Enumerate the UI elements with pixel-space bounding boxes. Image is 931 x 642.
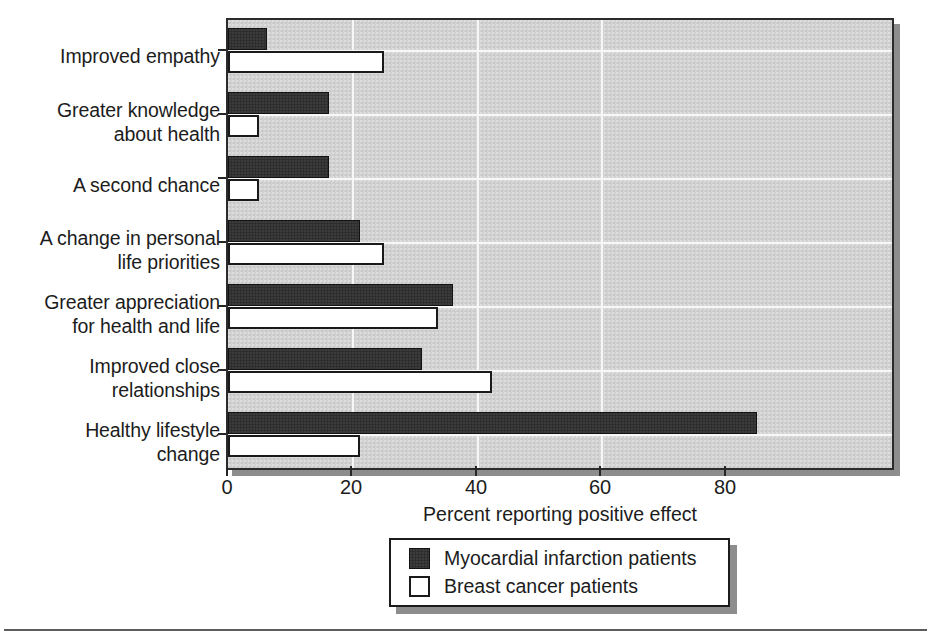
bar-breast-cancer-patients-healthy-lifestyle-change bbox=[228, 435, 360, 457]
gridline-x-60 bbox=[601, 20, 603, 468]
x-axis-tick-label-40: 40 bbox=[446, 476, 506, 499]
legend-swatch-open-square-icon bbox=[409, 576, 430, 597]
bar-myocardial-infarction-patients-greater-knowledge-about-health bbox=[228, 92, 329, 114]
bar-breast-cancer-patients-improved-close-relationships bbox=[228, 371, 492, 393]
page-footer-rule bbox=[4, 629, 927, 631]
legend-item-breast-cancer-patients: Breast cancer patients bbox=[409, 573, 638, 599]
x-axis-tick-label-80: 80 bbox=[695, 476, 755, 499]
bar-myocardial-infarction-patients-healthy-lifestyle-change bbox=[228, 412, 757, 434]
legend-box: Myocardial infarction patients Breast ca… bbox=[389, 538, 730, 607]
x-axis-tick-label-20: 20 bbox=[321, 476, 381, 499]
category-label-a-change-in-personal-life-priorities: A change in personal life priorities bbox=[0, 226, 220, 274]
category-label-improved-close-relationships: Improved close relationships bbox=[0, 354, 220, 402]
bar-myocardial-infarction-patients-improved-empathy bbox=[228, 28, 267, 50]
gridline-y-2 bbox=[228, 178, 892, 180]
category-label-a-second-chance: A second chance bbox=[0, 173, 220, 197]
legend-swatch-filled-square-icon bbox=[409, 548, 430, 569]
bar-breast-cancer-patients-a-change-in-personal-life-priorities bbox=[228, 243, 384, 265]
plot-area-container bbox=[226, 18, 894, 470]
bar-breast-cancer-patients-greater-knowledge-about-health bbox=[228, 115, 259, 137]
category-label-greater-knowledge-about-health: Greater knowledge about health bbox=[0, 98, 220, 146]
bar-myocardial-infarction-patients-a-change-in-personal-life-priorities bbox=[228, 220, 360, 242]
category-label-healthy-lifestyle-change: Healthy lifestyle change bbox=[0, 418, 220, 466]
bar-breast-cancer-patients-improved-empathy bbox=[228, 51, 384, 73]
bar-breast-cancer-patients-a-second-chance bbox=[228, 179, 259, 201]
legend-label-myocardial-infarction-patients: Myocardial infarction patients bbox=[444, 547, 697, 570]
bar-chart-figure: Improved empathy Greater knowledge about… bbox=[0, 0, 931, 642]
legend-item-myocardial-infarction-patients: Myocardial infarction patients bbox=[409, 545, 697, 571]
bar-myocardial-infarction-patients-improved-close-relationships bbox=[228, 348, 422, 370]
plot-area bbox=[226, 18, 894, 470]
x-axis-tick-label-0: 0 bbox=[197, 476, 257, 499]
y-axis-category-labels: Improved empathy Greater knowledge about… bbox=[0, 18, 220, 470]
x-axis-title: Percent reporting positive effect bbox=[226, 503, 894, 526]
category-label-greater-appreciation-for-health-and-life: Greater appreciation for health and life bbox=[0, 290, 220, 338]
category-label-improved-empathy: Improved empathy bbox=[0, 44, 220, 68]
x-axis-tick-80 bbox=[724, 466, 726, 476]
x-axis-tick-labels: 0 20 40 60 80 bbox=[0, 476, 931, 506]
x-axis-tick-0 bbox=[226, 466, 228, 476]
gridline-x-40 bbox=[477, 20, 479, 468]
bar-myocardial-infarction-patients-greater-appreciation-for-health-and-life bbox=[228, 284, 453, 306]
x-axis-tick-label-60: 60 bbox=[570, 476, 630, 499]
bar-myocardial-infarction-patients-a-second-chance bbox=[228, 156, 329, 178]
legend-label-breast-cancer-patients: Breast cancer patients bbox=[444, 575, 638, 598]
chart-legend: Myocardial infarction patients Breast ca… bbox=[389, 538, 737, 614]
bar-breast-cancer-patients-greater-appreciation-for-health-and-life bbox=[228, 307, 438, 329]
gridline-y-1 bbox=[228, 114, 892, 116]
